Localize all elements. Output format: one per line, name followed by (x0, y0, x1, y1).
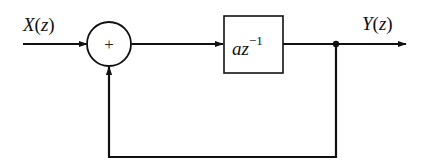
input-label: X(z) (22, 14, 55, 36)
feedback-path (109, 44, 336, 157)
output-label: Y(z) (362, 13, 393, 35)
block-diagram: X(z) + az−1 Y(z) (0, 0, 423, 163)
plus-sign: + (104, 35, 114, 54)
